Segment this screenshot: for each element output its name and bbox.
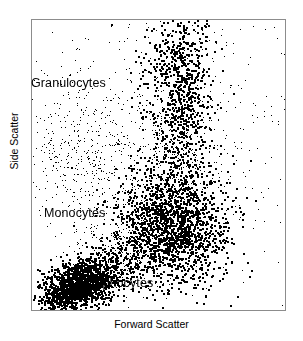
cluster-label-monocytes: Monocytes — [44, 206, 105, 220]
y-axis-label-wrapper: Side Scatter — [6, 101, 22, 181]
cluster-label-lymphocytes: Lymphocytes — [79, 276, 153, 290]
y-axis-label: Side Scatter — [8, 112, 20, 169]
granulocytes-leader-dash-icon — [143, 83, 149, 85]
cluster-label-granulocytes: Granulocytes — [31, 76, 106, 90]
scatter-point-cloud — [32, 20, 285, 310]
scatter-plot-frame — [31, 19, 286, 311]
figure-root: Granulocytes Monocytes Lymphocytes Forwa… — [0, 0, 303, 341]
x-axis-label: Forward Scatter — [0, 318, 303, 330]
